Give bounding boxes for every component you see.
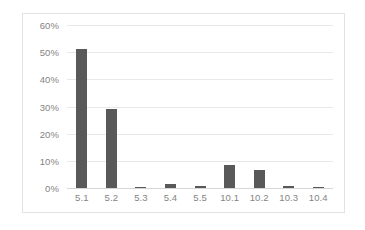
- x-axis-tick-label: 10.4: [304, 192, 334, 210]
- y-axis-tick-label: 30%: [40, 101, 59, 112]
- bar[interactable]: [135, 187, 146, 188]
- y-axis-tick-label: 0%: [45, 183, 59, 194]
- x-axis-tick-label: 10.3: [274, 192, 304, 210]
- x-axis-tick-label: 5.5: [185, 192, 215, 210]
- bar-slot: [304, 25, 334, 188]
- bar-slot: [126, 25, 156, 188]
- bar[interactable]: [76, 49, 87, 188]
- bar[interactable]: [165, 184, 176, 188]
- x-axis: 5.15.25.35.45.510.110.210.310.4: [67, 192, 333, 210]
- bar[interactable]: [195, 186, 206, 188]
- bar[interactable]: [106, 109, 117, 188]
- bar[interactable]: [283, 186, 294, 188]
- y-axis: 0%10%20%30%40%50%60%: [23, 25, 63, 188]
- bar-series: [67, 25, 333, 188]
- bar-slot: [274, 25, 304, 188]
- bar-slot: [67, 25, 97, 188]
- x-axis-tick-label: 5.3: [126, 192, 156, 210]
- y-axis-tick-label: 40%: [40, 74, 59, 85]
- plot-area: [67, 25, 333, 188]
- x-axis-tick-label: 5.4: [156, 192, 186, 210]
- bar-slot: [97, 25, 127, 188]
- chart-frame: 0%10%20%30%40%50%60% 5.15.25.35.45.510.1…: [22, 13, 345, 213]
- axis-baseline: [67, 188, 333, 189]
- y-axis-tick-label: 60%: [40, 20, 59, 31]
- bar[interactable]: [224, 165, 235, 188]
- x-axis-tick-label: 5.2: [97, 192, 127, 210]
- x-axis-tick-label: 10.1: [215, 192, 245, 210]
- y-axis-tick-label: 10%: [40, 155, 59, 166]
- bar[interactable]: [313, 187, 324, 188]
- y-axis-tick-label: 50%: [40, 47, 59, 58]
- y-axis-tick-label: 20%: [40, 128, 59, 139]
- bar[interactable]: [254, 170, 265, 188]
- bar-slot: [244, 25, 274, 188]
- bar-slot: [185, 25, 215, 188]
- bar-slot: [156, 25, 186, 188]
- bar-slot: [215, 25, 245, 188]
- x-axis-tick-label: 10.2: [244, 192, 274, 210]
- x-axis-tick-label: 5.1: [67, 192, 97, 210]
